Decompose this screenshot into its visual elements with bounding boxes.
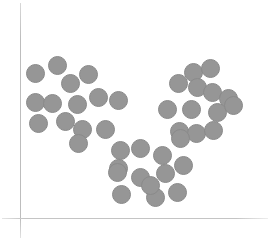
scatter-point [48, 56, 67, 75]
scatter-point [112, 185, 131, 204]
scatter-point [108, 163, 127, 182]
scatter-point [204, 121, 223, 140]
scatter-point [56, 112, 75, 131]
scatter-plot-figure [0, 0, 275, 246]
scatter-point [153, 146, 172, 165]
scatter-point [201, 59, 220, 78]
scatter-point [224, 96, 243, 115]
scatter-point [43, 94, 62, 113]
scatter-point [171, 129, 190, 148]
scatter-point [29, 114, 48, 133]
scatter-point [158, 100, 177, 119]
scatter-point [169, 74, 188, 93]
scatter-point [96, 120, 115, 139]
scatter-point [79, 65, 98, 84]
scatter-point [26, 93, 45, 112]
scatter-point [111, 141, 130, 160]
scatter-point [69, 134, 88, 153]
scatter-point [141, 176, 160, 195]
scatter-point [182, 100, 201, 119]
scatter-point [26, 64, 45, 83]
scatter-point [174, 156, 193, 175]
scatter-point [168, 183, 187, 202]
scatter-point [61, 74, 80, 93]
scatter-point [131, 139, 150, 158]
scatter-point [89, 88, 108, 107]
scatter-points-layer [0, 0, 275, 246]
scatter-point [109, 91, 128, 110]
scatter-point [68, 95, 87, 114]
